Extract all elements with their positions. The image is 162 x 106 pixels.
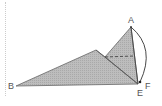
label-f: F [145, 82, 151, 91]
geometry-diagram: A B E F [0, 0, 162, 106]
label-e: E [137, 89, 143, 98]
label-b: B [8, 82, 14, 91]
point-a-dot [130, 26, 132, 28]
point-f-dot [139, 81, 142, 84]
label-a: A [128, 16, 134, 25]
